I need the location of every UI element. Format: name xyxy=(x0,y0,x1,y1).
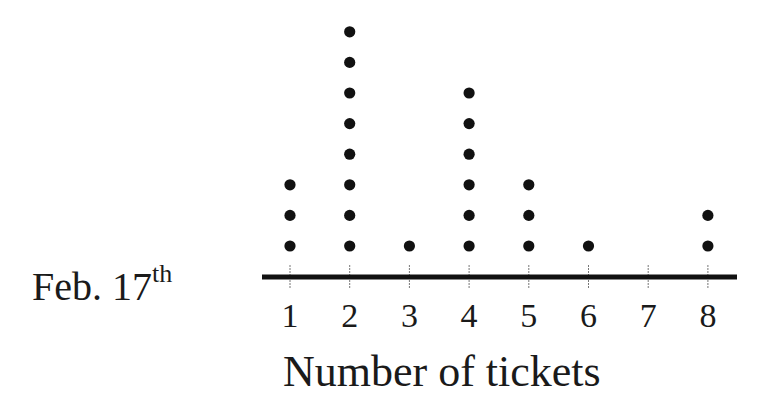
data-dot xyxy=(284,179,295,190)
data-dots xyxy=(284,26,713,251)
data-dot xyxy=(523,210,534,221)
data-dot xyxy=(284,240,295,251)
row-label: Feb. 17th xyxy=(32,254,172,311)
x-axis-tick-labels: 12345678 xyxy=(282,297,717,334)
data-dot xyxy=(344,87,355,98)
x-tick-label: 4 xyxy=(461,297,478,334)
data-dot xyxy=(344,149,355,160)
row-label-date: Feb. 17 xyxy=(32,264,152,309)
data-dot xyxy=(464,118,475,129)
data-dot xyxy=(523,179,534,190)
data-dot xyxy=(344,57,355,68)
data-dot xyxy=(702,240,713,251)
row-label-suffix: th xyxy=(152,259,172,288)
data-dot xyxy=(284,210,295,221)
data-dot xyxy=(404,240,415,251)
data-dot xyxy=(344,118,355,129)
x-tick-label: 2 xyxy=(341,297,358,334)
x-tick-label: 5 xyxy=(520,297,537,334)
data-dot xyxy=(344,210,355,221)
data-dot xyxy=(464,87,475,98)
data-dot xyxy=(464,210,475,221)
data-dot xyxy=(464,179,475,190)
x-tick-label: 1 xyxy=(282,297,299,334)
data-dot xyxy=(344,240,355,251)
x-tick-label: 7 xyxy=(640,297,657,334)
data-dot xyxy=(583,240,594,251)
data-dot xyxy=(464,240,475,251)
x-tick-label: 3 xyxy=(401,297,418,334)
data-dot xyxy=(344,26,355,37)
data-dot xyxy=(344,179,355,190)
data-dot xyxy=(523,240,534,251)
x-tick-label: 6 xyxy=(580,297,597,334)
x-tick-label: 8 xyxy=(699,297,716,334)
data-dot xyxy=(464,149,475,160)
x-axis-label: Number of tickets xyxy=(283,344,601,400)
data-dot xyxy=(702,210,713,221)
